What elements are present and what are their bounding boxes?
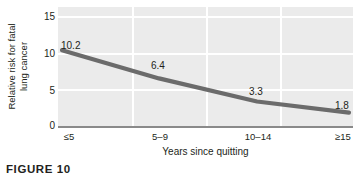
y-tick-label-0: 0	[49, 121, 55, 131]
y-axis-title-line-2: lung cancer	[17, 23, 29, 109]
y-tick-label-10: 10	[44, 49, 55, 59]
plot-area	[58, 7, 353, 126]
data-label-2: 3.3	[249, 87, 263, 97]
data-label-3: 1.8	[335, 101, 349, 111]
series-line-relative-risk	[58, 7, 353, 126]
data-label-1: 6.4	[151, 61, 165, 71]
x-tick-label-3: ≥15	[335, 131, 351, 142]
x-tick-label-1: 5–9	[152, 131, 168, 142]
figure-container: Relative risk for fatal lung cancer 15 1…	[0, 0, 361, 173]
y-tick-label-5: 5	[49, 86, 55, 96]
figure-caption: FIGURE 10	[6, 163, 71, 173]
x-tick-label-0: ≤5	[64, 131, 75, 142]
x-axis-title: Years since quitting	[58, 146, 353, 158]
y-axis-title-line-1: Relative risk for fatal	[6, 23, 17, 109]
x-axis-tick-labels: ≤5 5–9 10–14 ≥15	[58, 131, 353, 144]
x-axis-line	[58, 126, 353, 128]
data-label-0: 10.2	[61, 41, 80, 51]
y-axis-title: Relative risk for fatal lung cancer	[0, 0, 34, 133]
x-tick-label-2: 10–14	[245, 131, 271, 142]
y-tick-label-15: 15	[44, 12, 55, 22]
y-axis-tick-labels: 15 10 5 0	[34, 0, 57, 133]
